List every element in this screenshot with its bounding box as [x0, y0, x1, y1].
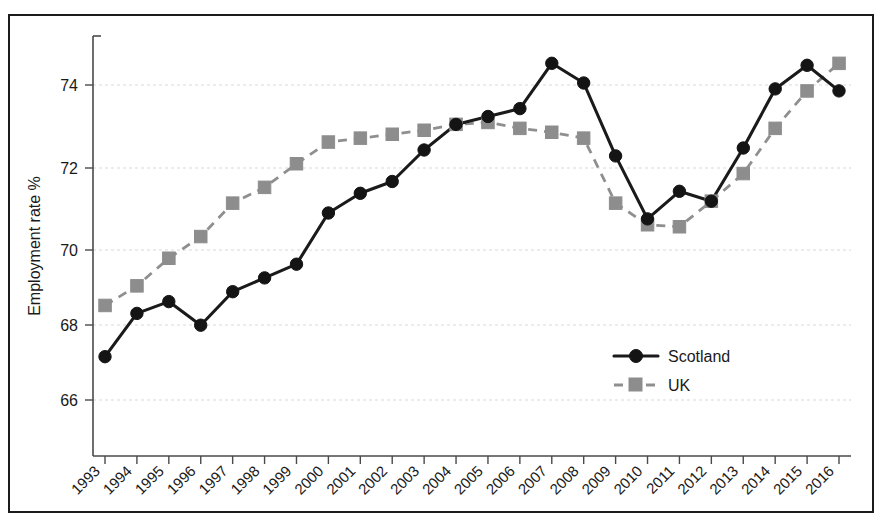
- legend-label-scotland: Scotland: [668, 348, 730, 365]
- x-tick-label-2001: 2001: [323, 462, 359, 498]
- y-tick-label-66: 66: [60, 392, 78, 409]
- data-point-scotland-2005: [482, 110, 494, 122]
- chart-figure-frame: 74 72 70 68 66 Employment rate % 1993199…: [8, 14, 874, 513]
- data-point-scotland-2003: [418, 144, 430, 156]
- data-point-uk-2002: [386, 128, 399, 141]
- data-point-uk-2011: [673, 221, 686, 234]
- data-point-scotland-1997: [227, 286, 239, 298]
- data-point-scotland-2006: [514, 102, 526, 114]
- data-point-scotland-2004: [450, 118, 462, 130]
- data-point-uk-2014: [769, 122, 782, 135]
- data-point-scotland-2007: [546, 57, 558, 69]
- data-point-uk-1995: [163, 252, 176, 265]
- data-point-scotland-1994: [131, 307, 143, 319]
- data-point-uk-1994: [131, 280, 144, 293]
- data-point-scotland-1998: [258, 272, 270, 284]
- data-point-scotland-1996: [195, 319, 207, 331]
- data-point-uk-2007: [546, 126, 559, 139]
- x-tick-label-2008: 2008: [546, 462, 582, 498]
- x-tick-label-1999: 1999: [259, 462, 295, 498]
- x-tick-label-2014: 2014: [738, 462, 774, 498]
- x-tick-label-2005: 2005: [450, 462, 486, 498]
- data-point-uk-1993: [99, 299, 112, 312]
- data-point-uk-1997: [226, 197, 239, 210]
- x-tick-label-1993: 1993: [68, 462, 104, 498]
- x-tick-label-2002: 2002: [355, 462, 391, 498]
- x-tick-label-2016: 2016: [802, 462, 838, 498]
- data-point-scotland-2012: [705, 195, 717, 207]
- employment-rate-line-chart: 74 72 70 68 66 Employment rate % 1993199…: [10, 16, 872, 511]
- data-point-uk-2006: [514, 122, 527, 135]
- data-point-uk-2015: [801, 85, 814, 98]
- x-tick-label-2003: 2003: [387, 462, 423, 498]
- x-tick-label-1996: 1996: [163, 462, 199, 498]
- y-tick-label-72: 72: [60, 160, 78, 177]
- legend-label-uk: UK: [668, 377, 691, 394]
- data-point-scotland-2000: [322, 207, 334, 219]
- data-point-uk-2013: [737, 167, 750, 180]
- data-point-uk-2008: [577, 132, 590, 145]
- x-tick-label-1995: 1995: [131, 462, 167, 498]
- y-tick-marks: [85, 85, 93, 400]
- x-tick-label-1998: 1998: [227, 462, 263, 498]
- data-point-scotland-2013: [737, 142, 749, 154]
- data-point-uk-1998: [258, 181, 271, 194]
- x-tick-labels: 1993199419951996199719981999200020012002…: [68, 462, 838, 498]
- y-tick-label-68: 68: [60, 317, 78, 334]
- data-point-scotland-1995: [163, 295, 175, 307]
- data-point-scotland-2015: [801, 59, 813, 71]
- data-point-scotland-2010: [641, 213, 653, 225]
- data-point-uk-2003: [418, 124, 431, 137]
- x-tick-label-2000: 2000: [291, 462, 327, 498]
- x-tick-label-2010: 2010: [610, 462, 646, 498]
- x-tick-label-1997: 1997: [195, 462, 231, 498]
- data-point-scotland-2001: [354, 187, 366, 199]
- x-tick-label-2004: 2004: [419, 462, 455, 498]
- plot-area-background: [93, 36, 851, 423]
- x-tick-label-2007: 2007: [514, 462, 550, 498]
- data-point-uk-1996: [195, 230, 208, 243]
- screenshot-root: 74 72 70 68 66 Employment rate % 1993199…: [0, 0, 887, 527]
- data-point-uk-2000: [322, 136, 335, 149]
- data-point-scotland-2008: [578, 77, 590, 89]
- x-tick-label-2006: 2006: [482, 462, 518, 498]
- y-tick-labels: 74 72 70 68 66: [60, 77, 78, 409]
- data-point-scotland-2009: [609, 150, 621, 162]
- x-tick-label-2013: 2013: [706, 462, 742, 498]
- x-tick-label-2011: 2011: [643, 462, 678, 497]
- data-point-scotland-2011: [673, 185, 685, 197]
- data-point-scotland-2016: [833, 85, 845, 97]
- data-point-scotland-1993: [99, 351, 111, 363]
- data-point-uk-2001: [354, 132, 367, 145]
- data-point-uk-2016: [833, 57, 846, 70]
- x-tick-label-1994: 1994: [99, 462, 135, 498]
- data-point-scotland-2014: [769, 83, 781, 95]
- y-axis-title: Employment rate %: [26, 176, 43, 316]
- legend-swatch-marker-scotland: [630, 350, 643, 363]
- x-tick-label-2012: 2012: [674, 462, 710, 498]
- legend-swatch-marker-uk: [629, 378, 642, 391]
- y-tick-label-70: 70: [60, 242, 78, 259]
- data-point-scotland-1999: [290, 258, 302, 270]
- x-tick-label-2015: 2015: [770, 462, 806, 498]
- data-point-scotland-2002: [386, 175, 398, 187]
- data-point-uk-2009: [609, 197, 622, 210]
- y-tick-label-74: 74: [60, 77, 78, 94]
- x-tick-label-2009: 2009: [578, 462, 614, 498]
- data-point-uk-1999: [290, 158, 303, 171]
